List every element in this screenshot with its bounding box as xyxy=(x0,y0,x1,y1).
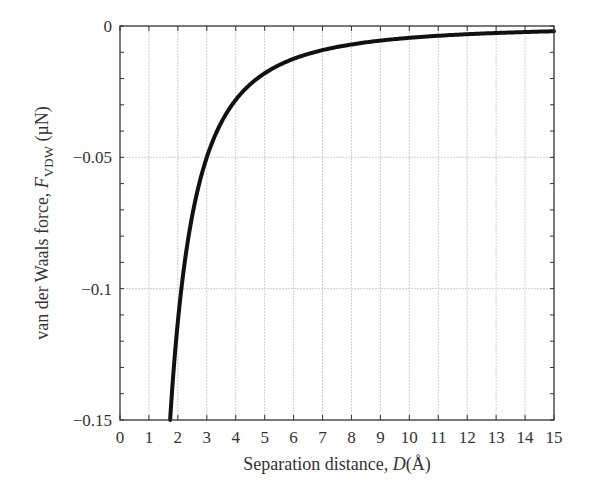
x-tick-label: 8 xyxy=(347,428,356,447)
grid-lines xyxy=(120,26,554,420)
y-tick-label: −0.15 xyxy=(73,411,112,430)
x-tick-label: 9 xyxy=(376,428,385,447)
x-tick-label: 7 xyxy=(318,428,327,447)
y-tick-label: −0.1 xyxy=(81,280,112,299)
x-tick-label: 0 xyxy=(116,428,125,447)
vdw-force-chart: 0123456789101112131415 0−0.05−0.1−0.15 S… xyxy=(0,0,594,496)
x-tick-labels: 0123456789101112131415 xyxy=(116,428,563,447)
axis-ticks xyxy=(120,26,554,420)
x-tick-label: 13 xyxy=(488,428,505,447)
x-tick-label: 4 xyxy=(231,428,240,447)
y-tick-labels: 0−0.05−0.1−0.15 xyxy=(73,17,112,430)
plot-frame xyxy=(120,26,554,420)
x-tick-label: 5 xyxy=(260,428,269,447)
y-tick-label: −0.05 xyxy=(73,148,112,167)
x-tick-label: 6 xyxy=(289,428,298,447)
x-tick-label: 1 xyxy=(145,428,154,447)
x-tick-label: 11 xyxy=(430,428,446,447)
y-axis-label: van der Waals force, FVDW (µN) xyxy=(32,106,56,340)
x-tick-label: 12 xyxy=(459,428,476,447)
y-tick-label: 0 xyxy=(104,17,113,36)
x-tick-label: 14 xyxy=(517,428,535,447)
x-tick-label: 2 xyxy=(174,428,183,447)
x-tick-label: 3 xyxy=(203,428,212,447)
x-tick-label: 10 xyxy=(401,428,418,447)
x-axis-label: Separation distance, D(Å) xyxy=(243,454,430,475)
x-tick-label: 15 xyxy=(546,428,563,447)
